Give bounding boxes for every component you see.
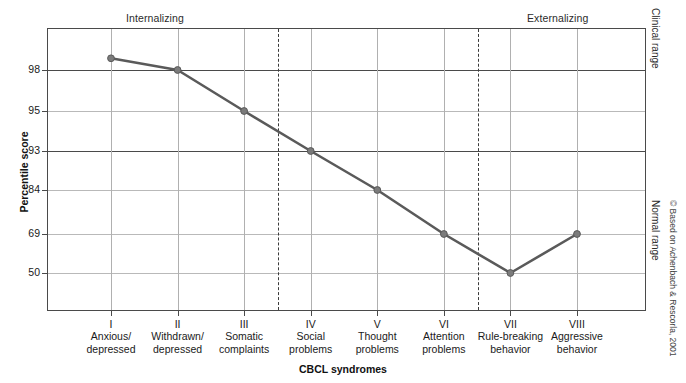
- gridline-category-2: [178, 29, 179, 310]
- gridline-98: [48, 70, 645, 71]
- y-tick-label-50: 50: [16, 266, 40, 278]
- gridline-category-3: [244, 29, 245, 310]
- copyright-credit: © Based on Achenbach & Rescorla, 2001: [668, 200, 678, 357]
- x-tick-mark-6: [444, 311, 445, 316]
- gridline-category-6: [444, 29, 445, 310]
- gridline-category-4: [311, 29, 312, 310]
- x-tick-mark-2: [178, 311, 179, 316]
- gridline-69: [48, 234, 645, 235]
- cbcl-profile-figure: Internalizing Externalizing Percentile s…: [0, 0, 686, 383]
- x-tick-mark-3: [244, 311, 245, 316]
- divider-internalizing-boundary: [278, 29, 279, 310]
- x-category-label-8: VIIIAggressivebehavior: [534, 318, 620, 355]
- x-category-line2-8: behavior: [534, 343, 620, 355]
- y-tick-mark-93: [42, 151, 47, 152]
- gridline-95: [48, 111, 645, 112]
- y-tick-mark-98: [42, 70, 47, 71]
- gridline-50: [48, 273, 645, 274]
- y-tick-mark-95: [42, 111, 47, 112]
- gridline-93: [48, 151, 645, 152]
- plot-area: [47, 28, 646, 311]
- y-tick-mark-69: [42, 234, 47, 235]
- x-tick-mark-4: [311, 311, 312, 316]
- gridline-84: [48, 190, 645, 191]
- y-tick-label-93: 93: [16, 144, 40, 156]
- x-tick-mark-7: [510, 311, 511, 316]
- x-category-line1-8: Aggressive: [534, 330, 620, 342]
- normal-range-label: Normal range: [650, 200, 661, 261]
- gridline-category-7: [510, 29, 511, 310]
- internalizing-band-label: Internalizing: [126, 12, 184, 24]
- gridline-category-8: [577, 29, 578, 310]
- y-axis-title: Percentile score: [18, 112, 30, 232]
- gridline-category-1: [111, 29, 112, 310]
- y-tick-mark-84: [42, 190, 47, 191]
- x-tick-mark-8: [577, 311, 578, 316]
- y-tick-mark-50: [42, 273, 47, 274]
- gridline-category-5: [377, 29, 378, 310]
- y-tick-label-69: 69: [16, 227, 40, 239]
- clinical-range-label: Clinical range: [650, 8, 661, 69]
- y-tick-label-84: 84: [16, 183, 40, 195]
- x-category-roman-8: VIII: [534, 318, 620, 330]
- y-tick-label-98: 98: [16, 63, 40, 75]
- y-tick-label-95: 95: [16, 104, 40, 116]
- externalizing-band-label: Externalizing: [527, 12, 588, 24]
- divider-externalizing-boundary: [478, 29, 479, 310]
- x-axis-title: CBCL syndromes: [0, 363, 686, 375]
- x-tick-mark-5: [377, 311, 378, 316]
- x-tick-mark-1: [111, 311, 112, 316]
